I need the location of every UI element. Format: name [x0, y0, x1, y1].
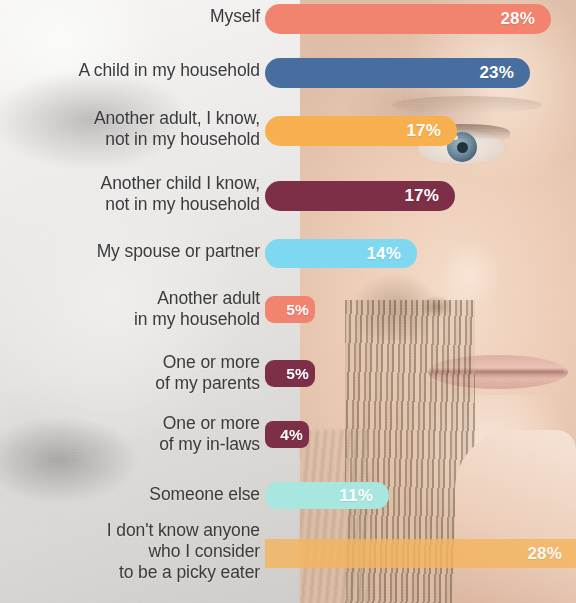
bar: 17%: [265, 116, 457, 146]
bar-value-label: 17%: [404, 186, 455, 206]
bar: 17%: [265, 181, 455, 211]
bar-category-label: Myself: [210, 6, 260, 27]
bar-category-label: One or more of my parents: [155, 352, 260, 394]
bar: 28%: [265, 539, 576, 568]
bar: 5%: [265, 296, 315, 323]
bar-value-label: 5%: [286, 301, 315, 319]
bar-value-label: 28%: [527, 544, 576, 564]
bar-value-label: 11%: [339, 486, 389, 506]
bar: 4%: [265, 421, 309, 448]
bar: 14%: [265, 239, 417, 268]
bar: 23%: [265, 58, 530, 88]
bar-value-label: 4%: [280, 426, 309, 444]
bar-value-label: 28%: [500, 9, 551, 29]
bar-category-label: Someone else: [149, 484, 260, 505]
bar-value-label: 5%: [286, 365, 315, 383]
bar-value-label: 23%: [479, 63, 530, 83]
bar-category-label: A child in my household: [78, 60, 260, 81]
bar-category-label: Another child I know, not in my househol…: [101, 173, 260, 215]
bar-category-label: My spouse or partner: [97, 241, 260, 262]
bar-category-label: One or more of my in-laws: [159, 413, 260, 455]
bar: 28%: [265, 4, 551, 34]
bar: 5%: [265, 360, 315, 387]
bar-category-label: Another adult, I know, not in my househo…: [94, 108, 260, 150]
bar-value-label: 17%: [406, 121, 457, 141]
bar-category-label: Another adult in my household: [134, 288, 260, 330]
bar-category-label: I don't know anyone who I consider to be…: [107, 520, 260, 583]
infographic-canvas: Myself28%A child in my household23%Anoth…: [0, 0, 576, 603]
bar-chart: Myself28%A child in my household23%Anoth…: [0, 0, 576, 603]
bar: 11%: [265, 482, 389, 509]
bar-value-label: 14%: [366, 244, 417, 264]
